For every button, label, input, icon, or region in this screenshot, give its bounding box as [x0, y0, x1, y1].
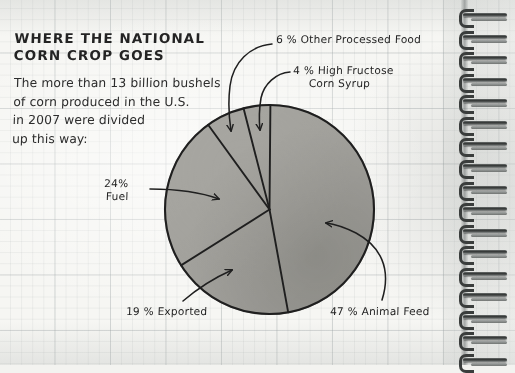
- label-exported: 19 % Exported: [126, 305, 208, 318]
- label-hfcs-line-2: Corn Syrup: [293, 77, 394, 90]
- label-hfcs-line-1: 4 % High Fructose: [293, 64, 394, 77]
- label-other-processed-food: 6 % Other Processed Food: [276, 33, 422, 46]
- leader-animal-feed: [326, 223, 386, 300]
- label-other-processed-food-text: 6 % Other Processed Food: [276, 33, 422, 46]
- label-high-fructose-corn-syrup: 4 % High Fructose Corn Syrup: [293, 64, 394, 90]
- label-fuel: 24% Fuel: [104, 177, 130, 203]
- label-fuel-name: Fuel: [104, 190, 129, 203]
- label-animal-feed-text: 47 % Animal Feed: [330, 305, 430, 318]
- label-animal-feed: 47 % Animal Feed: [330, 305, 430, 318]
- label-fuel-percent: 24%: [104, 177, 129, 190]
- label-exported-text: 19 % Exported: [126, 305, 208, 318]
- leader-high-fructose-corn-syrup: [259, 72, 290, 130]
- leader-exported: [183, 270, 232, 301]
- leader-fuel: [150, 189, 219, 199]
